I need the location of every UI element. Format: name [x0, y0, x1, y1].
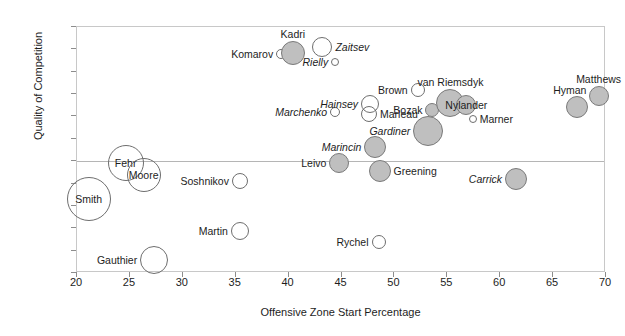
- x-tick-mark: [499, 272, 500, 277]
- data-point-bubble[interactable]: [329, 153, 349, 173]
- data-point-label: Bozak: [393, 104, 422, 116]
- data-point-label: Gardiner: [369, 125, 410, 137]
- data-point-label: Rielly: [302, 56, 328, 68]
- x-tick-mark: [393, 272, 394, 277]
- data-point-bubble[interactable]: [281, 41, 305, 65]
- data-point-label: Greening: [394, 165, 437, 177]
- data-point-bubble[interactable]: [232, 173, 248, 189]
- data-point-label: Smith: [75, 193, 102, 205]
- x-tick-label: 45: [321, 276, 361, 288]
- bubble-chart: Quality of Competition Offensive Zone St…: [0, 0, 625, 336]
- data-point-label: Nylander: [445, 99, 487, 111]
- x-tick-label: 60: [479, 276, 519, 288]
- x-tick-label: 40: [268, 276, 308, 288]
- data-point-label: Carrick: [469, 173, 502, 185]
- x-tick-mark: [446, 272, 447, 277]
- x-tick-label: 65: [532, 276, 572, 288]
- data-point-label: Komarov: [231, 48, 273, 60]
- x-tick-mark: [182, 272, 183, 277]
- x-tick-mark: [605, 272, 606, 277]
- data-point-label: Soshnikov: [180, 175, 228, 187]
- data-point-label: Hainsey: [320, 98, 358, 110]
- data-point-label: Gauthier: [97, 254, 137, 266]
- x-tick-mark: [235, 272, 236, 277]
- data-point-bubble[interactable]: [372, 235, 386, 249]
- data-point-label: van Riemsdyk: [417, 76, 483, 88]
- data-point-bubble[interactable]: [364, 136, 386, 158]
- data-point-bubble[interactable]: [413, 116, 443, 146]
- x-tick-mark: [288, 272, 289, 277]
- data-point-bubble[interactable]: [566, 96, 588, 118]
- plot-area: SmithFehrMooreGauthierSoshnikovMartinKom…: [76, 26, 605, 272]
- x-axis-title: Offensive Zone Start Percentage: [76, 306, 605, 318]
- data-point-bubble[interactable]: [469, 115, 477, 123]
- data-point-label: Zaitsev: [335, 41, 369, 53]
- data-point-label: Leivo: [301, 157, 326, 169]
- data-point-bubble[interactable]: [505, 168, 527, 190]
- x-tick-mark: [552, 272, 553, 277]
- data-point-bubble[interactable]: [369, 160, 391, 182]
- data-point-label: Matthews: [576, 73, 621, 85]
- data-point-label: Moore: [129, 169, 159, 181]
- data-point-label: Rychel: [336, 236, 368, 248]
- x-tick-label: 30: [162, 276, 202, 288]
- data-point-bubble[interactable]: [331, 58, 339, 66]
- x-tick-mark: [129, 272, 130, 277]
- data-point-label: Kadri: [281, 28, 306, 40]
- x-tick-label: 25: [109, 276, 149, 288]
- data-point-label: Martin: [199, 225, 228, 237]
- x-tick-mark: [76, 272, 77, 277]
- data-point-label: Hyman: [553, 84, 586, 96]
- data-point-bubble[interactable]: [231, 222, 249, 240]
- data-point-bubble[interactable]: [589, 86, 609, 106]
- x-tick-label: 70: [585, 276, 625, 288]
- x-tick-mark: [341, 272, 342, 277]
- x-tick-label: 20: [56, 276, 96, 288]
- y-axis-title: Quality of Competition: [32, 0, 44, 186]
- data-point-bubble[interactable]: [312, 37, 332, 57]
- data-point-bubble[interactable]: [140, 246, 168, 274]
- data-point-label: Marner: [480, 113, 513, 125]
- data-point-bubble[interactable]: [361, 106, 377, 122]
- x-tick-label: 55: [426, 276, 466, 288]
- x-tick-label: 35: [215, 276, 255, 288]
- data-point-label: Marincin: [322, 141, 362, 153]
- data-point-label: Brown: [378, 84, 408, 96]
- x-tick-label: 50: [373, 276, 413, 288]
